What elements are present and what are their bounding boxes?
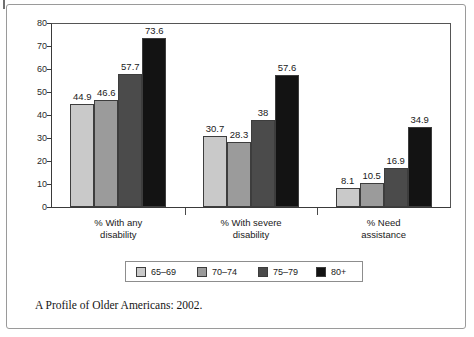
bars-layer: 44.946.657.773.630.728.33857.68.110.516.… [52, 23, 450, 207]
legend-item: 65–69 [136, 266, 176, 278]
bar [251, 120, 275, 207]
y-tick-label: 60 [15, 65, 47, 74]
x-category-label-line: disability [186, 229, 316, 241]
legend-label: 80+ [331, 267, 346, 277]
y-tick-mark [47, 161, 51, 162]
bar [275, 75, 299, 207]
y-tick-mark [47, 46, 51, 47]
bar [336, 188, 360, 207]
y-tick-label: 40 [15, 111, 47, 120]
legend-swatch [136, 267, 146, 277]
y-tick-label: 30 [15, 134, 47, 143]
x-category-label-line: % With severe [186, 217, 316, 229]
category-separator-tick [317, 208, 318, 215]
bar [360, 183, 384, 207]
bar [384, 168, 408, 207]
legend-label: 65–69 [151, 267, 176, 277]
legend-swatch [258, 267, 268, 277]
bar [118, 74, 142, 207]
y-tick-mark [47, 207, 51, 208]
plot-wrapper: 80706050403020100 44.946.657.773.630.728… [13, 11, 459, 216]
bar [142, 38, 166, 207]
category-separator-tick [185, 208, 186, 215]
bar-group: 8.110.516.934.9 [317, 23, 450, 207]
y-tick-mark [47, 69, 51, 70]
legend-label: 70–74 [212, 267, 237, 277]
y-tick-mark [47, 92, 51, 93]
bar [227, 142, 251, 207]
x-category-label-line: assistance [319, 229, 449, 241]
bar [94, 100, 118, 207]
chart-caption: A Profile of Older Americans: 2002. [35, 299, 202, 311]
x-category-label-line: % Need [319, 217, 449, 229]
bar-value-label: 34.9 [400, 115, 440, 125]
bar [203, 136, 227, 207]
x-category-label-line: disability [53, 229, 183, 241]
y-tick-mark [47, 23, 51, 24]
legend-label: 75–79 [273, 267, 298, 277]
legend-item: 70–74 [197, 266, 237, 278]
bar-chart: 80706050403020100 44.946.657.773.630.728… [13, 11, 459, 251]
x-category-label-line: % With any [53, 217, 183, 229]
bar-value-label: 73.6 [134, 26, 174, 36]
y-tick-label: 70 [15, 42, 47, 51]
y-tick-mark [47, 138, 51, 139]
bar-group: 44.946.657.773.6 [52, 23, 185, 207]
y-tick-label: 20 [15, 157, 47, 166]
y-axis: 80706050403020100 [13, 23, 47, 208]
y-tick-label: 80 [15, 19, 47, 28]
legend-item: 75–79 [258, 266, 298, 278]
legend-swatch [197, 267, 207, 277]
page-frame: 80706050403020100 44.946.657.773.630.728… [6, 4, 466, 329]
bar-value-label: 57.6 [267, 63, 307, 73]
chart-legend: 65–6970–7475–7980+ [125, 261, 363, 282]
legend-item: 80+ [316, 266, 346, 278]
legend-swatch [316, 267, 326, 277]
x-category-label: % With severedisability [186, 217, 316, 241]
y-tick-mark [47, 184, 51, 185]
x-axis-category-labels: % With anydisability% With severedisabil… [52, 217, 450, 249]
x-category-label: % With anydisability [53, 217, 183, 241]
y-tick-label: 50 [15, 88, 47, 97]
y-tick-mark [47, 115, 51, 116]
y-tick-label: 0 [15, 203, 47, 212]
x-category-label: % Needassistance [319, 217, 449, 241]
bar [70, 104, 94, 207]
bar [408, 127, 432, 207]
bar-group: 30.728.33857.6 [185, 23, 318, 207]
y-tick-label: 10 [15, 180, 47, 189]
corner-tick-mark [3, 0, 5, 9]
